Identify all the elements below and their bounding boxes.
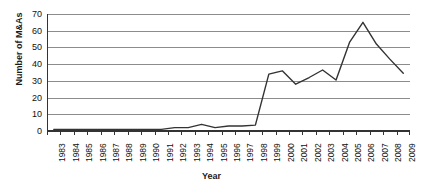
x-axis-tick-label: 2000 [286,143,296,162]
y-axis-tick-label: 70 [24,10,42,19]
x-axis-tick-label: 1990 [151,143,161,162]
x-axis-tick-marks [47,131,410,135]
x-axis-tick-label: 1987 [111,143,121,162]
x-axis-tick-mark [356,131,357,135]
y-axis-tick-label: 50 [24,43,42,52]
x-axis-tick-label: 2006 [366,143,376,162]
x-axis-tick-mark [249,131,250,135]
x-axis-tick-label: 1994 [205,143,215,162]
x-axis-tick-label: 1995 [219,143,229,162]
x-axis-tick-label: 2008 [393,143,403,162]
x-axis-tick-mark [60,131,61,135]
x-axis-tick-mark [195,131,196,135]
x-axis-tick-label: 2003 [326,143,336,162]
x-axis-tick-label: 1997 [245,143,255,162]
x-axis-tick-label: 2002 [313,143,323,162]
x-axis-tick-label: 1993 [192,143,202,162]
x-axis-tick-mark [262,131,263,135]
x-axis-tick-mark [289,131,290,135]
x-axis-tick-labels: 1983198419851986198719881989199019911992… [47,136,410,168]
x-axis-tick-label: 2007 [380,143,390,162]
x-axis-tick-mark [383,131,384,135]
x-axis-tick-mark [343,131,344,135]
y-axis-tick-label: 0 [24,127,42,136]
x-axis-tick-label: 2005 [353,143,363,162]
x-axis-tick-mark [409,131,410,135]
x-axis-tick-label: 1986 [98,143,108,162]
line-chart: Number of M&As 010203040506070 198319841… [0,0,423,190]
x-axis-tick-label: 2004 [340,143,350,162]
x-axis-tick-mark [74,131,75,135]
y-axis-tick-label: 30 [24,77,42,86]
x-axis-tick-label: 1992 [178,143,188,162]
x-axis-tick-label: 1984 [71,143,81,162]
x-axis-tick-mark [128,131,129,135]
x-axis-tick-mark [329,131,330,135]
x-axis-tick-mark [222,131,223,135]
x-axis-tick-mark [114,131,115,135]
x-axis-tick-label: 1998 [259,143,269,162]
data-series-line [47,14,410,131]
x-axis-tick-label: 1985 [84,143,94,162]
x-axis-tick-label: 1999 [272,143,282,162]
x-axis-tick-mark [276,131,277,135]
x-axis-tick-mark [47,131,48,135]
y-axis-tick-labels: 010203040506070 [22,0,42,190]
x-axis-title: Year [0,171,423,181]
x-axis-tick-mark [370,131,371,135]
x-axis-tick-label: 1988 [124,143,134,162]
x-axis-tick-label: 1983 [57,143,67,162]
x-axis-tick-label: 1989 [138,143,148,162]
x-axis-tick-mark [208,131,209,135]
y-axis-tick-label: 20 [24,94,42,103]
x-axis-tick-mark [155,131,156,135]
x-axis-tick-mark [235,131,236,135]
x-axis-tick-mark [397,131,398,135]
x-axis-tick-label: 1996 [232,143,242,162]
x-axis-tick-mark [87,131,88,135]
plot-area [47,14,410,131]
y-axis-tick-label: 40 [24,60,42,69]
x-axis-tick-label: 2001 [299,143,309,162]
x-axis-tick-mark [101,131,102,135]
x-axis-tick-mark [141,131,142,135]
x-axis-tick-mark [168,131,169,135]
x-axis-tick-label: 1991 [165,143,175,162]
x-axis-tick-label: 2009 [407,143,417,162]
y-axis-tick-label: 60 [24,27,42,36]
y-axis-tick-label: 10 [24,110,42,119]
x-axis-tick-mark [302,131,303,135]
x-axis-tick-mark [181,131,182,135]
x-axis-tick-mark [316,131,317,135]
